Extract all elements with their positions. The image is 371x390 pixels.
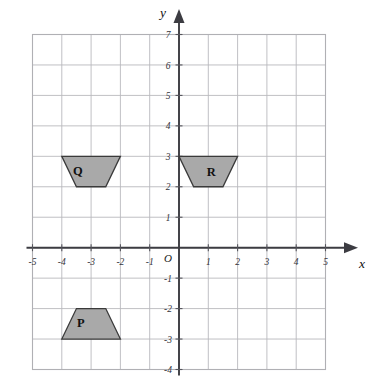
coordinate-grid-svg: -5-4-3-2-1123457654321-1-2-3-4OxyPQR xyxy=(0,0,371,390)
y-tick-label: 4 xyxy=(166,121,171,131)
y-tick-label: -4 xyxy=(164,365,172,375)
x-tick-label: -1 xyxy=(146,257,154,267)
x-tick-label: 3 xyxy=(264,257,270,267)
shape-label-r: R xyxy=(207,165,217,179)
origin-label: O xyxy=(164,252,172,264)
shape-label-p: P xyxy=(77,316,85,330)
graph-canvas: -5-4-3-2-1123457654321-1-2-3-4OxyPQR xyxy=(0,0,371,390)
y-tick-label: -1 xyxy=(164,274,172,284)
shape-p xyxy=(62,309,121,339)
x-axis-label: x xyxy=(358,256,365,271)
labels-group: -5-4-3-2-1123457654321-1-2-3-4OxyPQR xyxy=(29,5,365,375)
x-tick-label: 5 xyxy=(323,257,328,267)
x-tick-label: 4 xyxy=(294,257,299,267)
y-axis-label: y xyxy=(158,5,166,20)
y-tick-label: -2 xyxy=(164,304,172,314)
y-axis-arrowhead xyxy=(174,9,185,23)
y-tick-label: 5 xyxy=(166,91,171,101)
x-tick-label: 1 xyxy=(206,257,211,267)
y-tick-label: 3 xyxy=(165,152,171,162)
shape-label-q: Q xyxy=(73,164,83,178)
x-tick-label: 2 xyxy=(235,257,240,267)
x-tick-label: -3 xyxy=(87,257,95,267)
y-tick-label: 6 xyxy=(166,61,171,71)
x-tick-label: -2 xyxy=(116,257,124,267)
y-tick-label: 1 xyxy=(166,213,171,223)
x-tick-label: -4 xyxy=(58,257,66,267)
x-axis-arrowhead xyxy=(344,242,358,253)
y-tick-label: 7 xyxy=(166,30,172,40)
y-tick-label: -3 xyxy=(164,335,172,345)
shape-q xyxy=(62,156,121,186)
y-tick-label: 2 xyxy=(166,182,171,192)
x-tick-label: -5 xyxy=(29,257,37,267)
